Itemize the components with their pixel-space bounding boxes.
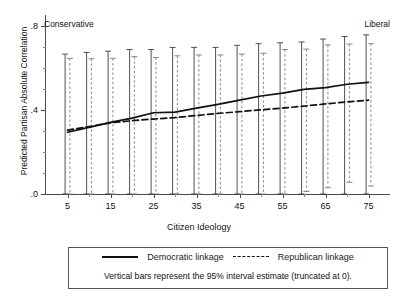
chart-figure: Predicted Partisan Absolute Correlation … (0, 0, 398, 296)
x-minor-tick (175, 194, 176, 197)
x-tick (68, 194, 69, 198)
x-minor-tick (89, 194, 90, 197)
series-lines-layer (46, 16, 390, 194)
republican-line-swatch-icon (233, 253, 269, 261)
y-tick (41, 194, 46, 195)
x-tick (111, 194, 112, 198)
x-axis-title: Citizen Ideology (0, 222, 398, 232)
x-tick-label: 5 (65, 201, 70, 211)
y-minor-tick (43, 131, 46, 132)
x-tick-label: 25 (148, 201, 158, 211)
x-minor-tick (347, 194, 348, 197)
x-axis-right-anchor-label: Liberal (364, 19, 390, 29)
x-minor-tick (132, 194, 133, 197)
x-tick-label: 75 (363, 201, 373, 211)
y-minor-tick (43, 47, 46, 48)
y-minor-tick (43, 89, 46, 90)
x-minor-tick (261, 194, 262, 197)
y-tick-label: .0 (30, 189, 38, 199)
series-line-democratic-linkage (68, 82, 369, 132)
x-tick-label: 65 (320, 201, 330, 211)
x-tick (326, 194, 327, 198)
legend-box: Democratic linkage Republican linkage Ve… (68, 247, 388, 289)
democratic-line-swatch-icon (102, 253, 138, 261)
x-tick-label: 35 (191, 201, 201, 211)
x-minor-tick (304, 194, 305, 197)
x-tick-label: 15 (105, 201, 115, 211)
y-axis-title: Predicted Partisan Absolute Correlation (19, 11, 29, 191)
x-axis-left-anchor-label: Conservative (44, 19, 94, 29)
y-tick-label: .8 (30, 21, 38, 31)
y-tick-label: .4 (30, 105, 38, 115)
plot-area: .0.4.8 515253545556575 (46, 16, 390, 194)
y-minor-tick (43, 173, 46, 174)
legend-note: Vertical bars represent the 95% interval… (69, 271, 387, 281)
x-tick (197, 194, 198, 198)
y-minor-tick (43, 68, 46, 69)
legend-label-republican: Republican linkage (278, 252, 354, 262)
legend-entries: Democratic linkage Republican linkage (69, 252, 387, 262)
legend-label-democratic: Democratic linkage (147, 252, 224, 262)
x-tick (154, 194, 155, 198)
y-minor-tick (43, 152, 46, 153)
x-tick (283, 194, 284, 198)
y-tick (41, 110, 46, 111)
x-tick (369, 194, 370, 198)
x-tick (240, 194, 241, 198)
x-tick-label: 45 (234, 201, 244, 211)
x-tick-label: 55 (277, 201, 287, 211)
x-minor-tick (218, 194, 219, 197)
